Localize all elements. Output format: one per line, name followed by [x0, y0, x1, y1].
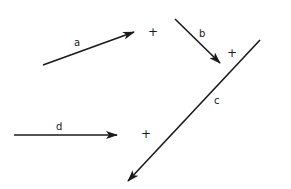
vector-b-label: b — [199, 29, 205, 39]
vector-c-label: c — [214, 96, 220, 106]
vector-a-label: a — [74, 38, 80, 48]
diagram-svg — [0, 0, 291, 189]
vector-b-arrow — [175, 19, 220, 63]
vector-diagram: a b c d + + + — [0, 0, 291, 189]
plus-marker-a: + — [148, 26, 158, 38]
vector-d-label: d — [56, 122, 62, 132]
vector-a-arrow — [43, 32, 134, 65]
plus-marker-d: + — [141, 128, 151, 140]
plus-marker-b: + — [227, 47, 237, 59]
vector-c-arrow — [128, 40, 260, 181]
